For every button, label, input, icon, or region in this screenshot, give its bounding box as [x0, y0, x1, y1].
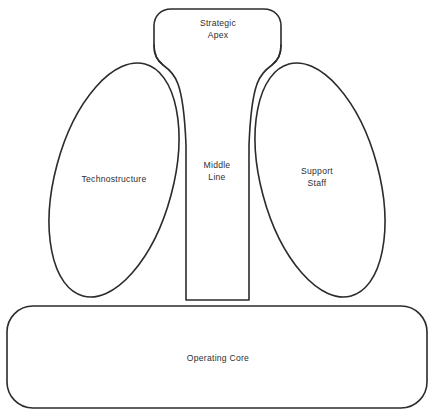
technostructure-shape	[26, 49, 202, 311]
support-staff-shape	[232, 49, 408, 311]
operating-core-shape	[7, 306, 427, 408]
diagram-canvas	[0, 0, 434, 417]
support-staff-group	[232, 49, 408, 311]
organization-structure-diagram: Strategic Apex Technostructure Middle Li…	[0, 0, 434, 417]
technostructure-group	[26, 49, 202, 311]
operating-core-group	[7, 306, 427, 408]
